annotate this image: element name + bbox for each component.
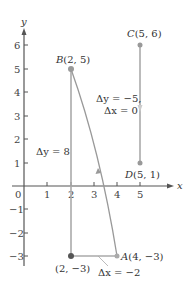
delta-y-cd-label: Δy = −5, (96, 93, 142, 104)
delta-x-cd-label: Δx = 0 (104, 105, 138, 116)
y-tick-label: 6 (14, 40, 20, 51)
y-tick-label: −1 (9, 204, 24, 215)
y-tick-label: 3 (14, 111, 20, 122)
y-tick-label: −3 (9, 251, 24, 262)
point-corner (68, 253, 74, 259)
origin-label: 0 (15, 189, 21, 200)
y-tick-label: 1 (14, 158, 20, 169)
delta-x-leader (98, 256, 108, 266)
x-axis-arrow-icon (167, 184, 174, 189)
x-tick-label: 1 (44, 189, 50, 200)
coordinate-plane-diagram: y x 0 1 2 3 4 5 6 5 4 3 2 1 −1 −2 −3 B(2… (0, 0, 190, 292)
label-point-a: A(4, −3) (120, 251, 164, 262)
delta-y-ab-label: Δy = 8 (36, 146, 70, 157)
x-tick-label: 4 (114, 189, 120, 200)
y-tick-label: 4 (14, 87, 20, 98)
y-tick-label: 2 (14, 134, 20, 145)
point-c (138, 43, 143, 48)
point-b (68, 66, 74, 72)
x-tick-label: 3 (91, 189, 97, 200)
delta-x-ab-label: Δx = −2 (98, 267, 140, 278)
label-point-b: B(2, 5) (55, 54, 90, 65)
x-tick-label: 5 (137, 189, 143, 200)
segment-cd-arrow-icon (138, 105, 143, 112)
point-a (115, 254, 120, 259)
point-d (138, 161, 143, 166)
x-axis-label: x (177, 180, 183, 191)
label-point-corner: (2, −3) (55, 263, 90, 274)
y-tick-label: −2 (9, 228, 24, 239)
y-axis-arrow-icon (22, 28, 27, 35)
y-axis-label: y (20, 16, 27, 27)
label-point-d: D(5, 1) (124, 169, 160, 180)
label-point-c: C(5, 6) (127, 28, 162, 39)
y-tick-label: 5 (14, 64, 20, 75)
